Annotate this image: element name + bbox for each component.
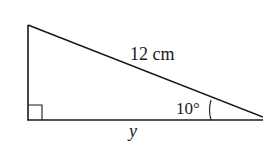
hypotenuse (28, 25, 263, 117)
right-angle-marker (28, 105, 42, 120)
angle-arc (210, 100, 212, 120)
triangle-diagram: 12 cm 10° y (0, 0, 263, 151)
angle-label: 10° (176, 99, 200, 118)
base-label: y (127, 121, 137, 141)
hypotenuse-label: 12 cm (130, 44, 175, 64)
